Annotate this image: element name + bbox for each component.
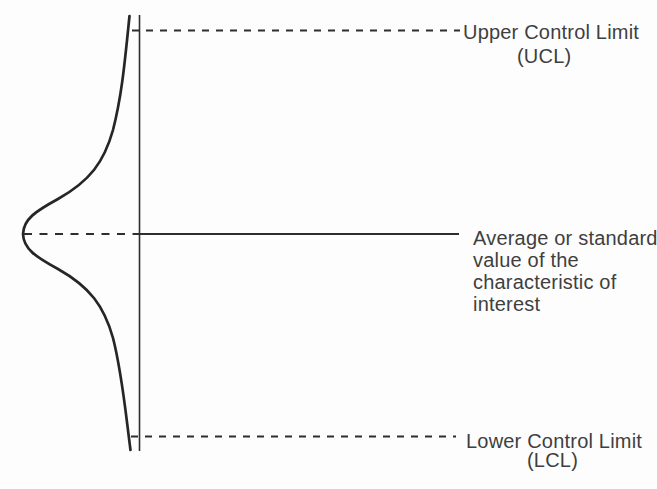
center-line-label: Average or standard value of the charact… [473, 227, 657, 315]
ucl-label: Upper Control Limit [463, 21, 639, 43]
ucl-abbreviation: (UCL) [517, 45, 571, 67]
center-line-label-line3: characteristic of [473, 271, 657, 293]
center-line-label-line2: value of the [473, 249, 657, 271]
center-line-label-line1: Average or standard [473, 227, 657, 249]
center-line-label-line4: interest [473, 293, 657, 315]
control-chart-diagram: Upper Control Limit (UCL) Average or sta… [0, 0, 657, 489]
lcl-abbreviation: (LCL) [527, 449, 578, 471]
